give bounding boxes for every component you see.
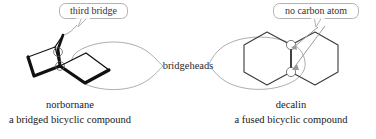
decalin-description-caption: a fused bicyclic compound xyxy=(235,114,349,125)
no-carbon-atom-label: no carbon atom xyxy=(285,5,347,16)
no-carbon-atom-callout[interactable]: no carbon atom xyxy=(274,4,359,28)
tail-seam-mask xyxy=(76,16,90,19)
tail-seam-mask-2 xyxy=(311,16,325,19)
norbornane-name-caption: norbornane xyxy=(46,99,94,110)
bridgeheads-label: bridgeheads xyxy=(163,60,214,71)
third-bridge-leader-line xyxy=(63,25,77,35)
norbornane-bridgehead-vertical-bond xyxy=(58,50,60,66)
third-bridge-label: third bridge xyxy=(70,5,117,16)
decalin-name-caption: decalin xyxy=(276,99,307,110)
third-bridge-callout[interactable]: third bridge xyxy=(60,4,128,28)
decalin-group xyxy=(209,26,338,89)
figure-canvas: third bridge bridgeheads xyxy=(0,0,376,139)
decalin-left-ring xyxy=(244,32,291,85)
norbornane-right-wing xyxy=(60,53,109,83)
norbornane-description-caption: a bridged bicyclic compound xyxy=(9,114,132,125)
norbornane-group xyxy=(28,25,163,90)
bicyclic-compounds-figure: third bridge bridgeheads xyxy=(0,0,376,139)
no-carbon-atom-leader-upper xyxy=(294,27,318,47)
